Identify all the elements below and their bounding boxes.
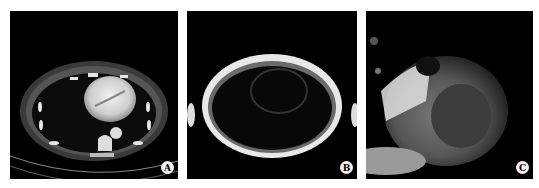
panel-label-a: A (161, 161, 174, 174)
panel-a-ct-image: A (10, 11, 178, 179)
ct-scan-graphic (10, 11, 178, 179)
panel-b-mri-image: B (187, 11, 357, 179)
mri-axial-graphic (187, 11, 357, 179)
panel-label-b: B (340, 161, 353, 174)
panel-c-cardiac-mri-image: C (366, 11, 533, 179)
panel-label-c: C (516, 161, 529, 174)
cardiac-mri-graphic (366, 11, 533, 179)
